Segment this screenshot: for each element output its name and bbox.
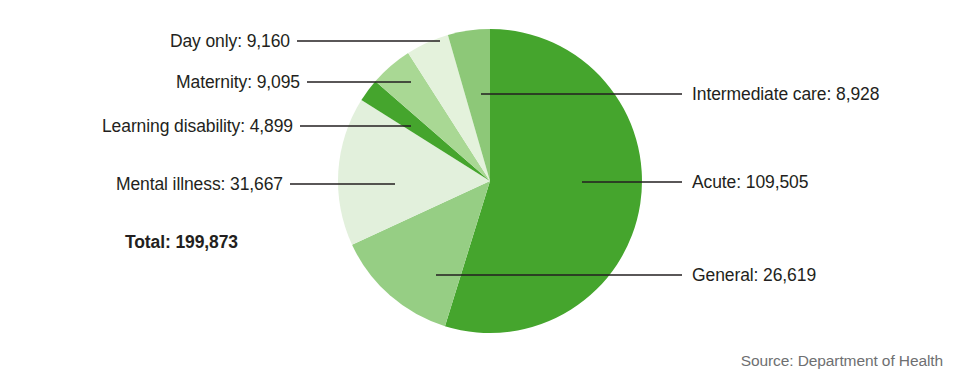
source-attribution: Source: Department of Health: [741, 352, 943, 370]
callout-general-label: General: 26,619: [692, 265, 816, 285]
callout-learning-disability: Learning disability: 4,899: [102, 116, 293, 136]
callout-general: General: 26,619: [692, 265, 816, 285]
callout-acute: Acute: 109,505: [692, 172, 808, 192]
callout-day-only: Day only: 9,160: [170, 31, 290, 51]
callout-intermediate-care-label: Intermediate care: 8,928: [692, 84, 879, 104]
callout-total: Total: 199,873: [125, 232, 238, 252]
callout-mental-illness: Mental illness: 31,667: [116, 174, 283, 194]
callout-total-label: Total: 199,873: [125, 232, 238, 252]
callout-acute-label: Acute: 109,505: [692, 172, 808, 192]
callout-day-only-label: Day only: 9,160: [170, 31, 290, 51]
callout-maternity-label: Maternity: 9,095: [176, 72, 300, 92]
callout-maternity: Maternity: 9,095: [176, 72, 300, 92]
pie-slice-group: Acute: 109,505General: 26,619Mental illn…: [338, 29, 642, 333]
callout-learning-disability-label: Learning disability: 4,899: [102, 116, 293, 136]
callout-intermediate-care: Intermediate care: 8,928: [692, 84, 879, 104]
pie-chart-figure: Acute: 109,505General: 26,619Mental illn…: [0, 0, 961, 382]
callout-mental-illness-label: Mental illness: 31,667: [116, 174, 283, 194]
